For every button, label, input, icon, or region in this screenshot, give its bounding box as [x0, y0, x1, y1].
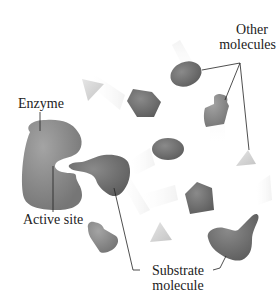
substrate-leader-right — [213, 256, 226, 270]
other-molecules-leader-triangle — [240, 63, 249, 150]
other-molecules-label-line1: Other — [200, 22, 277, 37]
enzyme-diagram: Enzyme Active site Other molecules Subst… — [0, 0, 277, 304]
substrate-label-line2: molecule — [142, 278, 214, 293]
substrate-label-line1: Substrate — [142, 263, 214, 278]
other-molecules-label-line2: molecules — [200, 37, 277, 52]
pentagon-molecule-1 — [127, 89, 161, 117]
triangle-molecule-2 — [236, 150, 256, 166]
pentagon-molecule-2 — [185, 182, 214, 214]
oval-molecule-2 — [152, 138, 184, 160]
triangle-molecule-3 — [150, 222, 172, 242]
other-molecules-label: Other molecules — [200, 22, 277, 52]
enzyme-label: Enzyme — [18, 96, 64, 111]
substrate-molecule-2 — [208, 214, 259, 261]
substrate-molecule-label: Substrate molecule — [142, 263, 214, 293]
active-site-label: Active site — [23, 212, 83, 227]
oval-molecule-1 — [167, 57, 206, 91]
other-molecules-leader-oval — [202, 63, 240, 70]
bottle-molecule-2 — [88, 222, 118, 253]
other-molecules-leader-bottle — [225, 63, 240, 100]
